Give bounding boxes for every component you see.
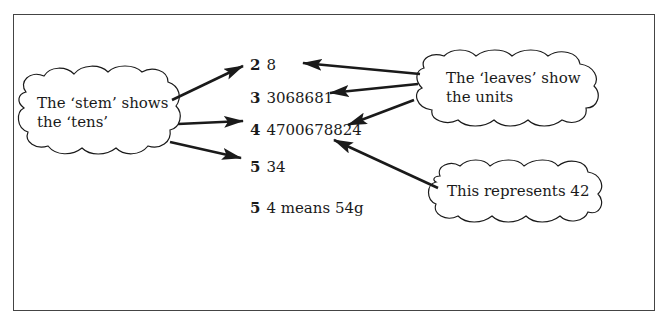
example-callout-line1: This represents 42: [447, 182, 589, 201]
stem-value: 4: [250, 121, 260, 139]
stem-leaf-row: 33068681: [250, 89, 333, 107]
stem-value: 2: [250, 56, 260, 74]
leaf-values: 4700678824: [266, 121, 361, 139]
arrow-leaves-to-row2: [303, 63, 420, 74]
leaf-values: 8: [266, 56, 276, 74]
arrows-and-clouds: [0, 0, 669, 319]
stem-callout-line2: the ‘tens’: [37, 113, 108, 132]
stem-leaf-row: 44700678824: [250, 121, 362, 139]
key-stem: 5: [250, 199, 260, 217]
leaves-callout-line2: the units: [446, 88, 513, 107]
key-text: 4 means 54g: [266, 199, 363, 217]
arrow-leaves-to-row3: [330, 84, 418, 93]
stem-value: 3: [250, 89, 260, 107]
leaves-callout-line1: The ‘leaves’ show: [446, 69, 581, 88]
leaf-values: 34: [266, 158, 285, 176]
stem-leaf-row: 534: [250, 158, 286, 176]
key-row: 54 means 54g: [250, 199, 364, 217]
stem-leaf-row: 28: [250, 56, 276, 74]
arrow-example-to-leaf: [334, 140, 438, 188]
leaf-values: 3068681: [266, 89, 333, 107]
stem-callout-line1: The ‘stem’ shows: [37, 94, 168, 113]
arrow-stem-to-3: [178, 121, 243, 124]
arrow-stem-to-5: [170, 142, 241, 158]
stem-value: 5: [250, 158, 260, 176]
arrow-stem-to-2: [172, 66, 243, 100]
